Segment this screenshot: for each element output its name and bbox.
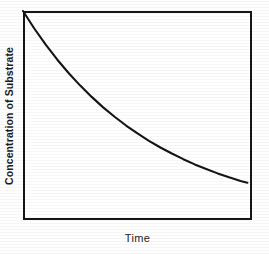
chart-figure: Concentration of Substrate Time: [0, 0, 269, 254]
y-axis-label: Concentration of Substrate: [1, 12, 17, 221]
substrate-decay-curve: [23, 11, 247, 183]
x-axis-label: Time: [23, 232, 252, 244]
decay-curve-layer: [23, 11, 252, 220]
